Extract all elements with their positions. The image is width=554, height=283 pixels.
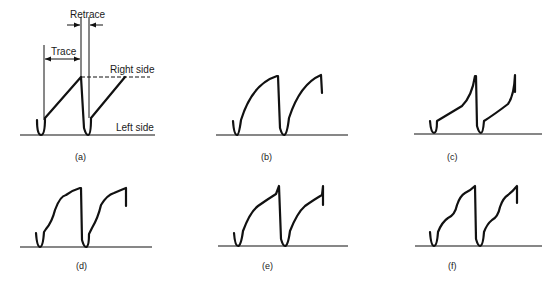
linear-sawtooth-wave [37, 77, 125, 135]
wavy-sawtooth-wave [430, 186, 517, 246]
left-side-label: Left side [116, 122, 154, 133]
sawtooth-waveform-figure: Retrace Trace Right side Left side (a) (… [0, 0, 554, 283]
retrace-label: Retrace [70, 9, 105, 20]
s-shaped-sawtooth-wave [36, 188, 126, 247]
panel-label-f: (f) [448, 261, 457, 271]
panel-label-a: (a) [75, 152, 86, 162]
concave-sawtooth-wave [430, 75, 515, 133]
trace-label: Trace [51, 46, 77, 57]
flattened-sawtooth-wave [234, 186, 323, 246]
panel-b: (b) [216, 75, 348, 162]
right-side-label: Right side [110, 64, 155, 75]
panel-label-b: (b) [261, 152, 272, 162]
panel-a: Retrace Trace Right side Left side (a) [20, 9, 155, 162]
panel-c: (c) [414, 75, 542, 162]
panel-d: (d) [20, 188, 152, 271]
convex-sawtooth-wave [233, 75, 322, 135]
panel-e: (e) [218, 186, 348, 271]
panel-label-c: (c) [447, 152, 458, 162]
panel-label-e: (e) [262, 261, 273, 271]
panel-label-d: (d) [76, 261, 87, 271]
panel-f: (f) [415, 186, 542, 271]
